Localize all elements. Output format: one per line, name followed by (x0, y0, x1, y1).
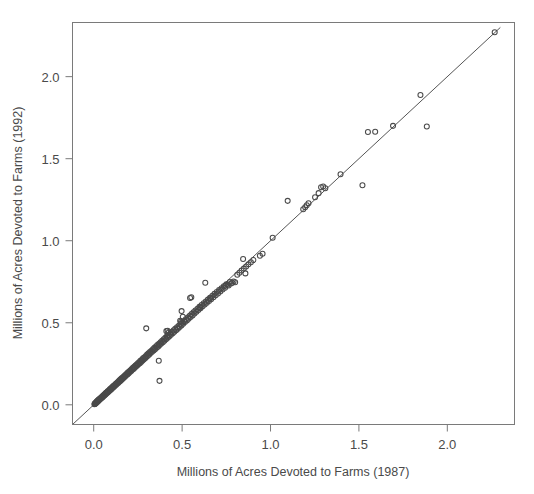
plot-canvas: 0.00.51.01.52.0 0.00.51.01.52.0 Millions… (0, 0, 534, 494)
y-tick-label: 0.0 (41, 398, 59, 413)
y-tick-label: 0.5 (41, 316, 59, 331)
figure-background (0, 0, 534, 494)
x-axis-title: Millions of Acres Devoted to Farms (1987… (177, 465, 410, 479)
x-tick-label: 0.5 (173, 437, 191, 452)
y-tick-label: 1.5 (41, 152, 59, 167)
x-tick-label: 1.0 (261, 437, 279, 452)
y-tick-label: 2.0 (41, 70, 59, 85)
y-axis-title: Millions of Acres Devoted to Farms (1992… (11, 107, 25, 340)
scatter-plot-figure: 0.00.51.01.52.0 0.00.51.01.52.0 Millions… (0, 0, 534, 494)
x-tick-label: 0.0 (85, 437, 103, 452)
x-tick-label: 2.0 (438, 437, 456, 452)
y-tick-label: 1.0 (41, 234, 59, 249)
x-tick-label: 1.5 (350, 437, 368, 452)
